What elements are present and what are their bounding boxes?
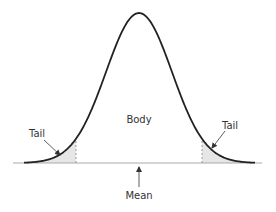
right-tail-arrow-icon (212, 131, 225, 148)
mean-label: Mean (125, 190, 152, 201)
left-tail-label: Tail (28, 128, 45, 139)
right-tail-label: Tail (221, 120, 238, 131)
body-label: Body (126, 114, 151, 125)
left-tail-arrow-icon (44, 140, 60, 155)
normal-distribution-diagram: Body Tail Tail Mean (0, 0, 276, 212)
bell-curve (24, 13, 255, 163)
diagram-svg: Body Tail Tail Mean (0, 0, 276, 212)
